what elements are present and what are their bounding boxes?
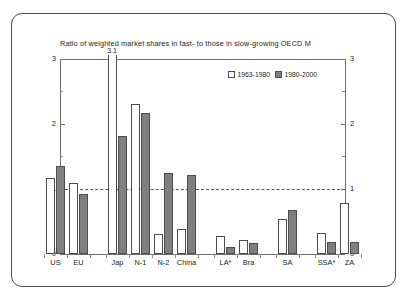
- legend-label: 1963-1980: [238, 71, 271, 78]
- bar-la-light: [216, 236, 226, 254]
- x-tick-label-china: China: [167, 258, 207, 267]
- bar-bra-light: [239, 240, 249, 254]
- bar-n-2-dark: [164, 173, 174, 254]
- x-axis-tick: [276, 254, 277, 258]
- x-axis-tick: [299, 254, 300, 258]
- x-axis-tick: [129, 254, 130, 258]
- bar-n-1-dark: [141, 113, 151, 254]
- x-tick-label-sa: SA: [268, 258, 308, 267]
- bars-layer: [0, 0, 408, 254]
- bar-n-1-light: [131, 104, 141, 254]
- bar-ssa-light: [317, 233, 327, 254]
- x-axis-tick: [198, 254, 199, 258]
- bar-za-light: [340, 203, 350, 254]
- legend-swatch-dark: [275, 71, 282, 78]
- bar-eu-light: [69, 183, 79, 255]
- bar-jap-dark: [118, 136, 128, 254]
- bar-us-light: [46, 178, 56, 254]
- legend-entry-1: 1980-2000: [275, 71, 317, 78]
- bar-bra-dark: [249, 243, 259, 254]
- x-axis-tick: [338, 254, 339, 258]
- bar-ssa-dark: [327, 242, 337, 254]
- legend-label: 1980-2000: [285, 71, 318, 78]
- bar-za-dark: [350, 242, 360, 254]
- bar-jap-light: [108, 55, 118, 254]
- x-axis-tick: [106, 254, 107, 258]
- bar-sa-light: [278, 219, 288, 254]
- x-tick-label-za: ZA: [330, 258, 370, 267]
- bar-china-light: [177, 229, 187, 254]
- x-axis-tick: [237, 254, 238, 258]
- legend-swatch-light: [228, 71, 235, 78]
- x-tick-label-bra: Bra: [229, 258, 269, 267]
- bar-n-2-light: [154, 234, 164, 254]
- chart-plot-area: Ratio of weighted market shares in fast-…: [0, 0, 408, 300]
- x-tick-label-eu: EU: [59, 258, 99, 267]
- x-axis-tick: [315, 254, 316, 258]
- x-axis-tick: [361, 254, 362, 258]
- legend-entry-0: 1963-1980: [228, 71, 270, 78]
- bar-eu-dark: [79, 194, 89, 254]
- x-axis-tick: [90, 254, 91, 258]
- x-axis-tick: [67, 254, 68, 258]
- x-axis-tick: [260, 254, 261, 258]
- bar-us-dark: [56, 166, 66, 254]
- bar-sa-dark: [288, 210, 298, 254]
- bar-la-dark: [226, 247, 236, 254]
- chart-legend: 1963-19801980-2000: [228, 71, 317, 78]
- bar-value-annotation: 3.1: [107, 47, 116, 54]
- x-axis-tick: [214, 254, 215, 258]
- x-axis-tick: [175, 254, 176, 258]
- x-axis-tick: [152, 254, 153, 258]
- x-axis-tick: [44, 254, 45, 258]
- bar-china-dark: [187, 175, 197, 254]
